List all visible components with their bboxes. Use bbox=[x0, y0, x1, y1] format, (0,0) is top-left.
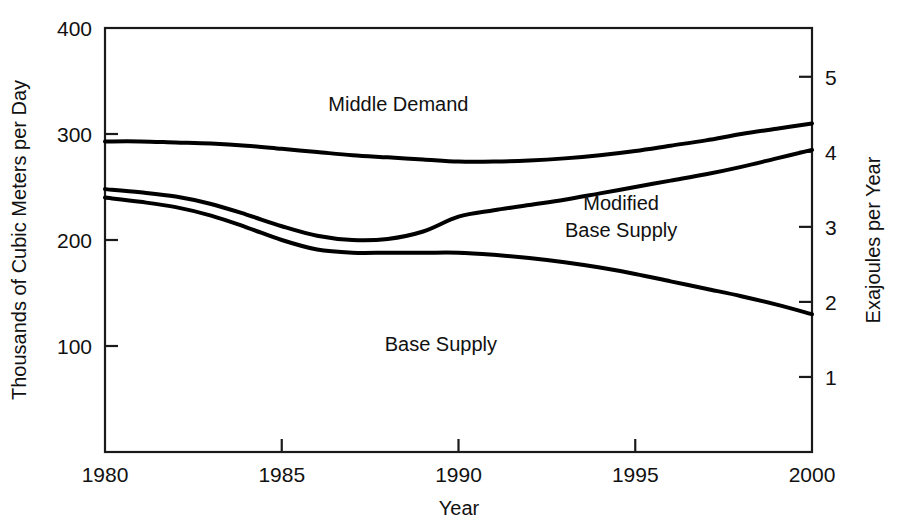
x-axis-tick-label: 1985 bbox=[258, 463, 305, 486]
y-axis-left-tick-label: 300 bbox=[57, 123, 92, 146]
x-axis-tick-label: 1990 bbox=[435, 463, 482, 486]
y-axis-left-tick-label: 200 bbox=[57, 229, 92, 252]
line-chart: 100200300400 12345 19801985199019952000 … bbox=[0, 0, 899, 524]
y-axis-right-tick-label: 3 bbox=[825, 216, 837, 239]
series-label: Base Supply bbox=[385, 333, 497, 355]
y-axis-right-title: Exajoules per Year bbox=[862, 156, 884, 323]
chart-figure: 100200300400 12345 19801985199019952000 … bbox=[0, 0, 899, 524]
chart-background bbox=[0, 0, 899, 524]
y-axis-right-tick-label: 1 bbox=[825, 366, 837, 389]
y-axis-right-tick-label: 2 bbox=[825, 291, 837, 314]
series-label: Middle Demand bbox=[328, 93, 468, 115]
x-axis-title: Year bbox=[439, 497, 480, 519]
x-axis-tick-label: 1995 bbox=[612, 463, 659, 486]
y-axis-left-title: Thousands of Cubic Meters per Day bbox=[8, 80, 30, 400]
series-label: Modified bbox=[583, 192, 659, 214]
y-axis-left-tick-label: 100 bbox=[57, 335, 92, 358]
x-axis-tick-label: 1980 bbox=[82, 463, 129, 486]
y-axis-right-tick-label: 5 bbox=[825, 66, 837, 89]
y-axis-left-tick-label: 400 bbox=[57, 17, 92, 40]
x-axis-tick-label: 2000 bbox=[789, 463, 836, 486]
y-axis-right-tick-label: 4 bbox=[825, 141, 837, 164]
series-label: Base Supply bbox=[565, 219, 677, 241]
